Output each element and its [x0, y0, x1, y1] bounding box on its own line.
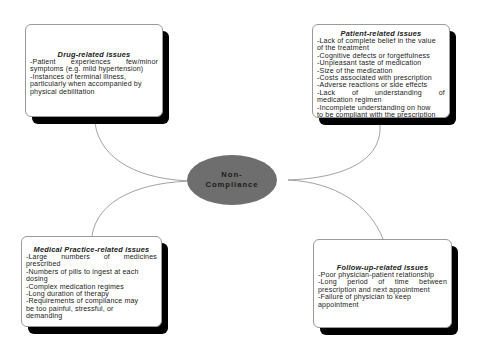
- node-items: -Poor physician-patient relationship -Lo…: [318, 272, 447, 309]
- list-item: demanding: [26, 313, 157, 320]
- patient-related-box: Patient-related issues -Lack of complete…: [312, 24, 450, 118]
- follow-up-related-box: Follow-up-related issues -Poor physician…: [313, 239, 452, 328]
- connector-drug: [95, 123, 197, 181]
- node-items: -Large numbers of medicines prescribed -…: [26, 254, 157, 321]
- drug-related-box: Drug-related issues -Patient experiences…: [25, 24, 163, 117]
- medical-practice-related-box: Medical Practice-related issues -Large n…: [21, 236, 162, 327]
- connector-patient: [288, 125, 380, 180]
- connector-medical: [92, 181, 197, 236]
- list-item: physical debilitation: [30, 89, 158, 96]
- list-item: to be compliant with the prescription: [317, 112, 445, 119]
- center-label-line2: Compliance: [205, 180, 258, 190]
- center-label-line1: Non-: [221, 170, 242, 180]
- center-node-non-compliance: Non- Compliance: [187, 155, 277, 205]
- node-items: -Patient experiences few/minor symptoms …: [30, 59, 158, 96]
- list-item: appointment: [318, 302, 447, 309]
- connector-followup: [288, 180, 383, 239]
- node-items: -Lack of complete belief in the value of…: [317, 38, 445, 119]
